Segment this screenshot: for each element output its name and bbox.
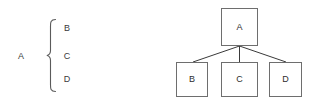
tree-node-b-label: B bbox=[176, 62, 208, 97]
tree-node-d-label: D bbox=[269, 62, 302, 97]
tree-node-a-label: A bbox=[221, 8, 258, 46]
tree-edge-a-to-b bbox=[193, 46, 240, 62]
tree-node-c-label: C bbox=[221, 62, 258, 97]
tree-edge-a-to-d bbox=[240, 46, 287, 62]
diagram-canvas: A B C D A B C D bbox=[0, 0, 320, 104]
